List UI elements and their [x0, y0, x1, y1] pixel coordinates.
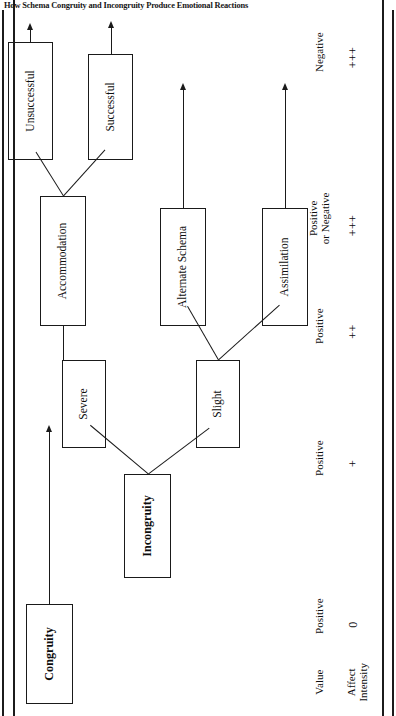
arrow-head-successful-outcome [108, 21, 114, 28]
outcome-value-successful: Positive or Negative [307, 182, 332, 254]
edge-severe-accommodation [63, 326, 64, 360]
outcome-value-alternate-schema: Positive [313, 295, 325, 357]
scan-edge-right [382, 0, 384, 716]
edge-incongruity-slight [148, 428, 209, 475]
outcome-value-unsuccessful: Negative [313, 21, 325, 83]
node-severe[interactable]: Severe [62, 360, 106, 448]
node-assimilation-label: Assimilation [279, 238, 291, 297]
node-slight-label: Slight [212, 390, 224, 417]
arrow-line-assimilation-outcome [285, 88, 286, 208]
arrow-head-congruity-outcome [46, 425, 52, 432]
node-slight[interactable]: Slight [196, 360, 240, 448]
arrow-line-alternate-schema-outcome [183, 88, 184, 208]
node-congruity[interactable]: Congruity [26, 604, 73, 704]
affect-intensity-congruity: 0 [346, 602, 361, 648]
arrow-head-assimilation-outcome [282, 83, 288, 90]
affect-intensity-alternate-schema: ++ [346, 309, 361, 355]
edge-slight-assimilation [218, 305, 280, 361]
arrow-line-successful-outcome [111, 26, 112, 54]
node-successful[interactable]: Successful [88, 54, 133, 160]
affect-intensity-unsuccessful: +++ [346, 35, 361, 81]
scan-edge-left [13, 0, 15, 716]
node-incongruity-label: Incongruity [141, 495, 153, 557]
frame-rule-bottom [392, 10, 394, 716]
node-incongruity[interactable]: Incongruity [124, 474, 171, 578]
arrow-line-congruity-outcome [49, 430, 50, 604]
figure-body: Congruity Incongruity Slight Severe Assi… [0, 10, 396, 716]
edge-incongruity-severe [90, 425, 149, 475]
node-unsuccessful[interactable]: Unsuccessful [8, 42, 53, 160]
node-severe-label: Severe [78, 388, 90, 419]
diagram-canvas: Congruity Incongruity Slight Severe Assi… [0, 10, 396, 716]
frame-rule-top [2, 10, 4, 716]
outcome-value-congruity: Positive [313, 585, 325, 647]
node-congruity-label: Congruity [43, 627, 55, 681]
row-label-value: Value [313, 653, 325, 711]
outcome-value-assimilation: Positive [313, 427, 325, 489]
node-unsuccessful-label: Unsuccessful [25, 70, 37, 131]
arrow-head-alternate-schema-outcome [180, 83, 186, 90]
node-accommodation-label: Accommodation [57, 223, 69, 300]
node-accommodation[interactable]: Accommodation [40, 196, 86, 326]
edge-accommodation-successful [63, 150, 105, 197]
affect-intensity-assimilation: + [346, 441, 361, 487]
row-label-affect-intensity: Affect Intensity [345, 647, 370, 716]
node-alternate-schema[interactable]: Alternate Schema [160, 208, 206, 326]
figure-title: How Schema Congruity and Incongruity Pro… [4, 1, 248, 10]
arrow-head-unsuccessful-outcome [27, 23, 33, 30]
node-successful-label: Successful [105, 82, 117, 131]
node-assimilation[interactable]: Assimilation [262, 208, 308, 326]
node-alternate-schema-label: Alternate Schema [177, 226, 189, 308]
affect-intensity-successful: +++ [346, 203, 361, 249]
